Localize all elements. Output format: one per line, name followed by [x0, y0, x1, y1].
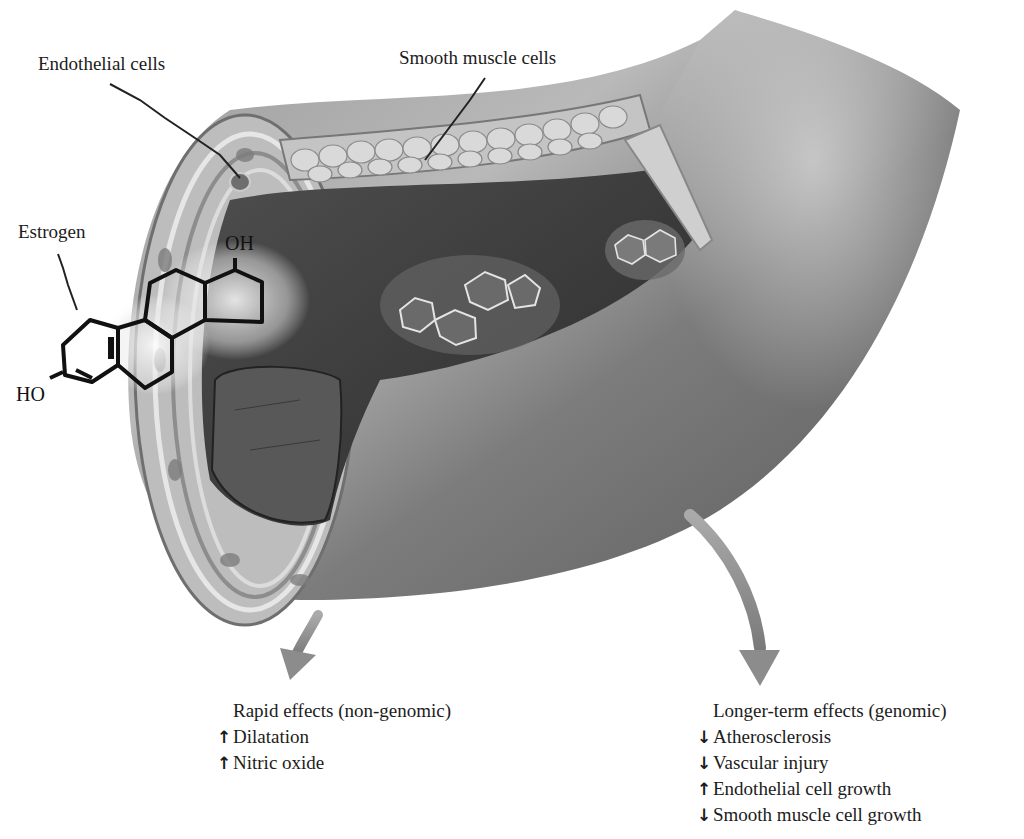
arrow-down-icon: ↓: [697, 724, 713, 750]
rapid-effects-list: Rapid effects (non-genomic) ↑Dilatation …: [217, 698, 451, 776]
longer-effect-item: ↓Smooth muscle cell growth: [697, 802, 947, 828]
rapid-effects-heading: Rapid effects (non-genomic): [217, 698, 451, 724]
rapid-effect-text: Nitric oxide: [233, 752, 324, 773]
longer-effect-text: Smooth muscle cell growth: [713, 804, 921, 825]
estrogen-molecule-inner-1: [380, 255, 560, 355]
rapid-effect-text: Dilatation: [233, 726, 309, 747]
longer-effect-text: Atherosclerosis: [713, 726, 831, 747]
rapid-effect-item: ↑Dilatation: [217, 724, 451, 750]
longer-effect-text: Vascular injury: [713, 752, 829, 773]
rapid-effects-arrow: [280, 615, 318, 680]
estrogen-label: Estrogen: [18, 222, 86, 241]
hydroxyl-oh-label: OH: [225, 233, 254, 253]
hydroxyl-ho-label: HO: [16, 384, 45, 404]
arrow-down-icon: ↓: [697, 750, 713, 776]
smooth-muscle-cells-label: Smooth muscle cells: [399, 48, 556, 67]
longer-term-effects-heading: Longer-term effects (genomic): [697, 698, 947, 724]
arrow-up-icon: ↑: [697, 776, 713, 802]
estrogen-molecule-inner-2: [605, 220, 685, 280]
arrow-up-icon: ↑: [217, 724, 233, 750]
longer-effects-arrow: [690, 515, 780, 686]
endothelial-cells-label: Endothelial cells: [38, 54, 165, 73]
longer-effect-item: ↓Atherosclerosis: [697, 724, 947, 750]
rapid-effect-item: ↑Nitric oxide: [217, 750, 451, 776]
longer-effect-text: Endothelial cell growth: [713, 778, 891, 799]
arrow-up-icon: ↑: [217, 750, 233, 776]
longer-term-effects-list: Longer-term effects (genomic) ↓Atheroscl…: [697, 698, 947, 828]
arrow-down-icon: ↓: [697, 802, 713, 828]
endothelial-cell: [230, 173, 250, 191]
longer-effect-item: ↑Endothelial cell growth: [697, 776, 947, 802]
longer-effect-item: ↓Vascular injury: [697, 750, 947, 776]
